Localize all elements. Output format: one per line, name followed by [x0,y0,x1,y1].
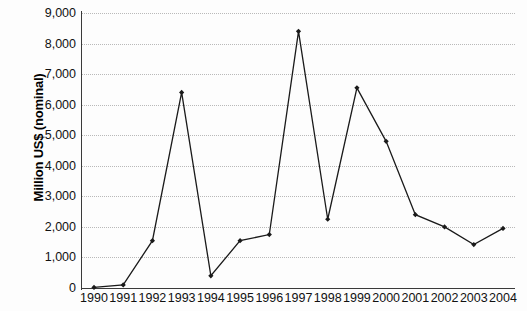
x-axis-tick-label: 1999 [343,291,371,305]
data-point-marker [500,226,505,231]
y-axis-tick-label: 9,000 [24,6,76,20]
y-axis-tick-label: 8,000 [24,37,76,51]
y-axis-tick-label: 6,000 [24,98,76,112]
x-axis-tick-label: 1991 [109,291,137,305]
data-point-marker [267,232,272,237]
data-point-marker [384,139,389,144]
data-point-marker [325,217,330,222]
y-axis-tick-label: 2,000 [24,220,76,234]
x-axis-tick-label: 1992 [139,291,167,305]
y-axis-tick-label: 7,000 [24,67,76,81]
x-axis-tick-label: 2003 [460,291,488,305]
x-axis-line [81,288,515,289]
x-axis-tick-label: 2001 [401,291,429,305]
y-axis-tick-label: 4,000 [24,159,76,173]
x-axis-tick-label: 1998 [314,291,342,305]
data-point-marker [354,85,359,90]
data-series [82,13,515,288]
x-axis-tick-labels: 1990199119921993199419951996199719981999… [82,291,515,311]
x-axis-tick-label: 1995 [226,291,254,305]
series-markers [91,29,505,290]
x-axis-tick-label: 1993 [168,291,196,305]
y-axis-tick-label: 0 [24,281,76,295]
y-axis-tick-label: 1,000 [24,250,76,264]
series-line [94,31,503,287]
y-axis-tick-labels: 01,0002,0003,0004,0005,0006,0007,0008,00… [24,0,76,311]
x-axis-tick-label: 2000 [372,291,400,305]
x-axis-tick-label: 1994 [197,291,225,305]
x-axis-tick-label: 1996 [255,291,283,305]
y-axis-tick-label: 3,000 [24,189,76,203]
x-axis-tick-label: 1990 [80,291,108,305]
data-point-marker [296,29,301,34]
x-axis-tick-label: 2002 [431,291,459,305]
line-chart: Million US$ (nominal) 01,0002,0003,0004,… [0,0,527,311]
data-point-marker [91,285,96,290]
data-point-marker [179,90,184,95]
x-axis-tick-label: 2004 [489,291,517,305]
x-axis-tick-label: 1997 [285,291,313,305]
plot-area [82,13,515,288]
y-axis-tick-label: 5,000 [24,128,76,142]
data-point-marker [413,212,418,217]
